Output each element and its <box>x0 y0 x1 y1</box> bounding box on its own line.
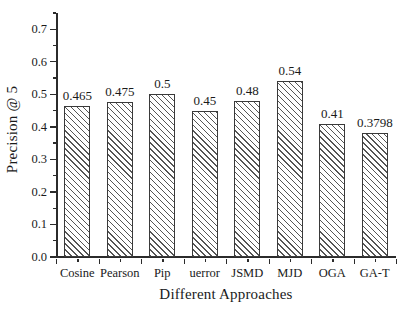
y-tick-minor <box>53 240 57 241</box>
x-tick <box>141 259 142 264</box>
x-tick-label: MJD <box>277 266 302 281</box>
x-tick-label: Cosine <box>60 266 95 281</box>
y-tick-major <box>50 29 56 30</box>
bar <box>192 111 218 257</box>
x-tick-label: JSMD <box>231 266 263 281</box>
bar-value-label: 0.475 <box>105 84 134 100</box>
y-tick-label: 0.4 <box>0 119 47 134</box>
x-tick <box>269 259 270 264</box>
x-tick <box>396 259 397 264</box>
bar <box>64 106 90 257</box>
bar <box>277 81 303 257</box>
bar <box>149 94 175 257</box>
y-tick-minor <box>53 110 57 111</box>
y-tick-label: 0.5 <box>0 87 47 102</box>
bar-chart-figure: Precision @ 5 0.4650.4750.50.450.480.540… <box>0 0 410 315</box>
y-tick-minor <box>53 175 57 176</box>
y-tick-major <box>50 126 56 127</box>
y-tick-major <box>50 94 56 95</box>
y-tick-label: 0.0 <box>0 250 47 265</box>
y-tick-major <box>50 224 56 225</box>
x-tick <box>311 259 312 264</box>
bar <box>319 124 345 257</box>
x-axis-label-text: Different Approaches <box>159 286 292 302</box>
y-tick-major <box>50 159 56 160</box>
bar-value-label: 0.48 <box>236 83 259 99</box>
x-axis-label: Different Approaches <box>56 286 396 303</box>
x-tick-minor <box>375 259 376 263</box>
bar-value-label: 0.54 <box>278 63 301 79</box>
x-tick-label: OGA <box>319 266 346 281</box>
y-tick-label: 0.7 <box>0 22 47 37</box>
y-tick-minor <box>53 77 57 78</box>
bar-value-label: 0.41 <box>321 106 344 122</box>
y-tick-label: 0.1 <box>0 217 47 232</box>
x-tick-minor <box>162 259 163 263</box>
x-tick <box>56 259 57 264</box>
bar <box>107 102 133 257</box>
x-tick-minor <box>77 259 78 263</box>
y-tick-minor <box>53 208 57 209</box>
plot-area: 0.4650.4750.50.450.480.540.410.3798 <box>56 13 396 257</box>
y-tick-label: 0.6 <box>0 54 47 69</box>
x-tick-minor <box>120 259 121 263</box>
x-tick-minor <box>205 259 206 263</box>
y-tick-minor <box>53 142 57 143</box>
y-tick-label: 0.3 <box>0 152 47 167</box>
x-tick <box>99 259 100 264</box>
x-tick <box>184 259 185 264</box>
x-tick-label: Pip <box>154 266 171 281</box>
y-tick-major <box>50 256 56 257</box>
x-tick-label: Pearson <box>100 266 140 281</box>
x-tick <box>226 259 227 264</box>
x-tick <box>354 259 355 264</box>
x-tick-minor <box>290 259 291 263</box>
y-tick-major <box>50 191 56 192</box>
bar-value-label: 0.45 <box>193 93 216 109</box>
y-tick-minor <box>53 12 57 13</box>
x-tick-label: uerror <box>189 266 220 281</box>
x-tick-label: GA-T <box>360 266 390 281</box>
bar <box>234 101 260 257</box>
y-tick-label: 0.2 <box>0 184 47 199</box>
y-tick-major <box>50 61 56 62</box>
x-tick-minor <box>247 259 248 263</box>
bar <box>362 133 388 257</box>
y-tick-minor <box>53 45 57 46</box>
x-tick-minor <box>332 259 333 263</box>
bar-value-label: 0.3798 <box>357 115 393 131</box>
bar-value-label: 0.5 <box>154 76 170 92</box>
bar-value-label: 0.465 <box>63 88 92 104</box>
